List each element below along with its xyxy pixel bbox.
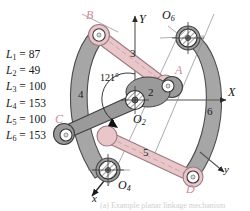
joint-label-O2: O2 (133, 112, 146, 127)
link-length-L3: L3 = 100 (6, 80, 46, 96)
link-number-6: 6 (207, 105, 213, 117)
link-length-L1: L1 = 87 (6, 48, 46, 64)
link-length-L4: L4 = 153 (6, 97, 46, 113)
joint-label-O6: O6 (162, 8, 175, 23)
figure-caption: (a) Example planar linkage mechanism (100, 201, 250, 211)
link-length-L6: L6 = 153 (6, 129, 46, 145)
pin-joint-C (60, 129, 72, 141)
pin-joint-B (93, 29, 105, 41)
link-number-5: 5 (143, 146, 149, 158)
axis-label-Y: Y (139, 12, 146, 27)
axis-label-X: X (228, 85, 235, 100)
link-length-list: L1 = 87 L2 = 49 L3 = 100 L4 = 153 L5 = 1… (6, 48, 46, 145)
axis-label-local-y: y (224, 163, 229, 175)
joint-label-O4: O4 (118, 178, 131, 193)
link-length-L5: L5 = 100 (6, 113, 46, 129)
joint-label-A: A (175, 63, 182, 78)
link-number-3: 3 (130, 47, 136, 59)
link-number-4: 4 (78, 88, 84, 100)
pin-joint-A (162, 80, 174, 92)
link-number-2: 2 (148, 86, 154, 98)
joint-label-D: D (186, 182, 195, 197)
link-length-L2: L2 = 49 (6, 64, 46, 80)
angle-label-121: 121° (100, 72, 119, 83)
axis-label-local-x: x (92, 192, 97, 204)
link-4-arc (70, 26, 109, 178)
joint-label-C: C (55, 112, 63, 127)
joint-label-B: B (86, 8, 93, 23)
figure-canvas: L1 = 87 L2 = 49 L3 = 100 L4 = 153 L5 = 1… (0, 0, 250, 211)
